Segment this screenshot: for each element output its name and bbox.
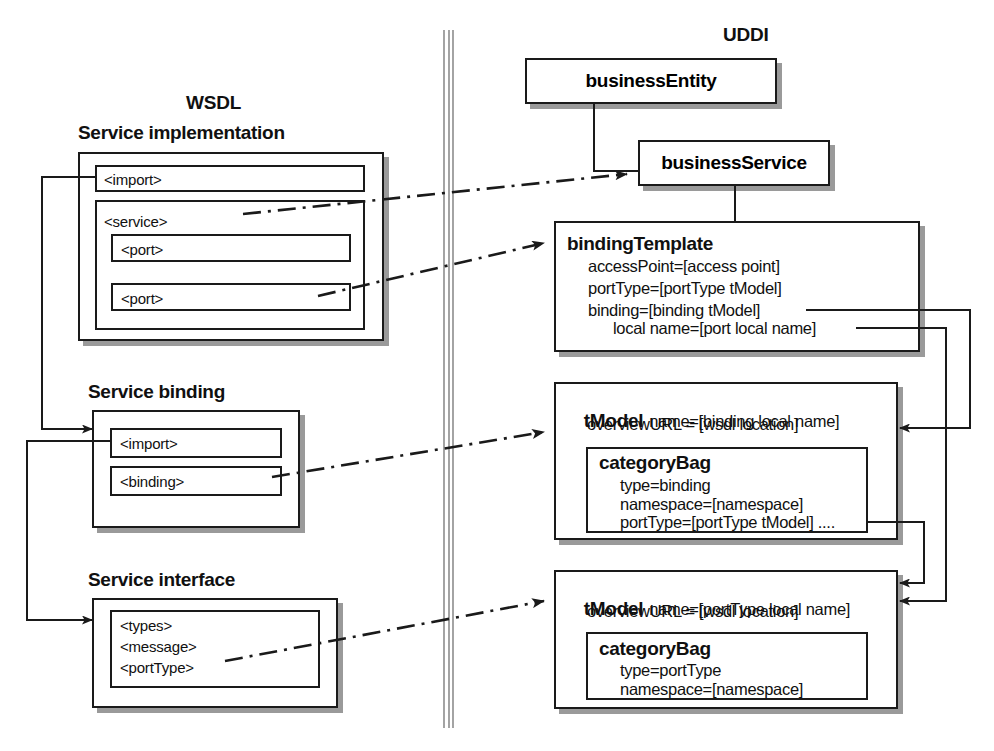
sb-binding-label: <binding>: [120, 473, 184, 490]
sif-types-label: <types>: [120, 617, 172, 634]
diagram-canvas: WSDL Service implementation <import> <se…: [0, 0, 994, 751]
wsdl-title: WSDL: [186, 92, 241, 114]
binding-template-binding: binding=[binding tModel]: [588, 301, 760, 320]
binding-template-title: bindingTemplate: [567, 233, 713, 255]
wire-map-binding-to-tmodel-binding: [272, 432, 544, 477]
uddi-title: UDDI: [723, 24, 769, 46]
business-entity-box: [525, 58, 777, 104]
tmodel-porttype-cb-type: type=portType: [620, 661, 721, 680]
si-port-label-1: <port>: [121, 241, 163, 258]
group-title-service-interface: Service interface: [88, 569, 235, 591]
tmodel-binding-cb-porttype: portType=[portType tModel] ....: [620, 513, 835, 532]
tmodel-binding-categorybag-title: categoryBag: [599, 452, 711, 474]
group-title-service-binding: Service binding: [88, 381, 225, 403]
sif-message-label: <message>: [120, 638, 197, 655]
tmodel-porttype-cb-namespace: namespace=[namespace]: [620, 680, 803, 699]
column-divider: [444, 30, 453, 728]
business-service-box: [638, 140, 830, 186]
tmodel-binding-cb-namespace: namespace=[namespace]: [620, 495, 803, 514]
group-title-service-implementation: Service implementation: [78, 122, 285, 144]
si-import-label: <import>: [104, 171, 162, 188]
binding-template-localname: local name=[port local name]: [613, 319, 816, 338]
tmodel-binding-cb-type: type=binding: [620, 476, 710, 495]
binding-template-porttype: portType=[portType tModel]: [588, 279, 782, 298]
sif-porttype-label: <portType>: [120, 659, 194, 676]
tmodel-binding-overviewurl: overviewURL = [wsdl location]: [587, 415, 798, 434]
wire-entity-to-service: [594, 104, 638, 171]
binding-template-accesspoint: accessPoint=[access point]: [588, 257, 780, 276]
tmodel-porttype-overviewurl: overviewURL = [wsdl location]: [587, 602, 798, 621]
si-service-label: <service>: [104, 213, 167, 230]
si-port-label-2: <port>: [121, 290, 163, 307]
sb-import-label: <import>: [120, 435, 178, 452]
tmodel-porttype-categorybag-title: categoryBag: [599, 638, 711, 660]
